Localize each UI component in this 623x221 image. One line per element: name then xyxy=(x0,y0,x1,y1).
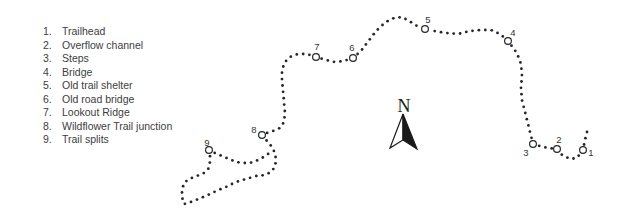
main-trail-dot xyxy=(190,201,193,204)
main-trail-dot xyxy=(208,161,211,164)
main-trail-dot xyxy=(452,32,455,35)
legend-item-number: 1. xyxy=(43,25,62,39)
main-trail-dot xyxy=(440,31,443,34)
main-trail-dot xyxy=(181,191,184,194)
main-trail-dot xyxy=(459,32,462,35)
legend-item-label: Lookout Ridge xyxy=(62,106,130,120)
main-trail-dot xyxy=(308,53,311,56)
waypoint-label-1: 1 xyxy=(588,147,593,158)
main-trail-dot xyxy=(433,30,436,33)
main-trail-dot xyxy=(465,31,468,34)
split-branch-dot xyxy=(213,152,216,155)
legend-list: 1.Trailhead2.Overflow channel3.Steps4.Br… xyxy=(43,25,172,147)
main-trail-dot xyxy=(410,21,413,24)
legend-item-6: 6.Old road bridge xyxy=(43,93,172,107)
waypoint-circle-4 xyxy=(505,38,512,45)
main-trail-dot xyxy=(207,193,210,196)
main-trail-dot xyxy=(282,97,285,100)
waypoint-circle-3 xyxy=(530,141,537,148)
split-branch-dot xyxy=(225,157,228,160)
legend-item-label: Trailhead xyxy=(62,25,105,39)
main-trail-dot xyxy=(520,67,523,70)
main-trail-dot xyxy=(182,185,185,188)
main-trail-dot xyxy=(282,122,285,125)
main-trail-dot xyxy=(521,99,524,102)
main-trail-dot xyxy=(530,136,533,139)
compass-north-label: N xyxy=(398,96,411,116)
main-trail-dot xyxy=(267,172,270,175)
split-branch-dot xyxy=(231,159,234,162)
main-trail-dot xyxy=(274,162,277,165)
main-trail-dot xyxy=(266,132,269,135)
waypoint-circle-2 xyxy=(554,146,561,153)
main-trail-dot xyxy=(527,124,530,127)
main-trail-dot xyxy=(577,154,580,157)
legend-item-label: Old trail shelter xyxy=(62,79,133,93)
legend-item-2: 2.Overflow channel xyxy=(43,39,172,53)
legend-item-1: 1.Trailhead xyxy=(43,25,172,39)
compass-arrow-left-half xyxy=(390,114,403,148)
main-trail-dot xyxy=(584,137,587,140)
legend-item-label: Old road bridge xyxy=(62,93,134,107)
split-branch-dot xyxy=(267,153,270,156)
main-trail-dot xyxy=(583,143,586,146)
legend-item-number: 9. xyxy=(43,133,62,147)
main-trail-dot xyxy=(478,29,481,32)
main-trail-dot xyxy=(283,116,286,119)
main-trail-dot xyxy=(386,20,389,23)
main-trail-dot xyxy=(285,60,288,63)
main-trail-dot xyxy=(361,48,364,51)
main-trail-dot xyxy=(243,178,246,181)
main-trail-dot xyxy=(345,59,348,62)
main-trail-dot xyxy=(219,188,222,191)
legend-item-5: 5.Old trail shelter xyxy=(43,79,172,93)
main-trail-dot xyxy=(202,172,205,175)
main-trail-dot xyxy=(517,55,520,58)
split-branch-dot xyxy=(243,162,246,165)
waypoint-label-2: 2 xyxy=(556,134,561,145)
main-trail-dot xyxy=(202,196,205,199)
main-trail-dot xyxy=(181,197,184,200)
waypoint-label-7: 7 xyxy=(314,41,319,52)
main-trail-dot xyxy=(249,176,252,179)
trail-map-figure: 123456789 N 1.Trailhead2.Overflow channe… xyxy=(0,0,623,221)
legend-item-number: 2. xyxy=(43,39,62,53)
main-trail-dot xyxy=(376,28,379,31)
main-trail-dot xyxy=(265,139,268,142)
main-trail-dot xyxy=(295,53,298,56)
main-trail-dot xyxy=(320,57,323,60)
main-trail-dot xyxy=(273,150,276,153)
legend-item-label: Wildflower Trail junction xyxy=(62,120,172,134)
main-trail-dot xyxy=(209,155,212,158)
main-trail-dot xyxy=(281,71,284,74)
main-trail-dot xyxy=(272,130,275,133)
main-trail-dot xyxy=(544,146,547,149)
legend-item-number: 8. xyxy=(43,120,62,134)
main-trail-dot xyxy=(272,168,275,171)
main-trail-dot xyxy=(566,156,569,159)
main-trail-dot xyxy=(529,130,532,133)
main-trail-dot xyxy=(520,93,523,96)
main-trail-dot xyxy=(261,174,264,177)
legend-item-number: 6. xyxy=(43,93,62,107)
legend-item-label: Overflow channel xyxy=(62,39,143,53)
compass-rose: N xyxy=(390,96,417,149)
main-trail-dot xyxy=(519,61,522,64)
main-trail-dot xyxy=(333,60,336,63)
main-trail-dot xyxy=(372,33,375,36)
main-trail-dot xyxy=(484,29,487,32)
main-trail-dot xyxy=(501,35,504,38)
main-trail-dot xyxy=(196,198,199,201)
main-trail-dot xyxy=(225,185,228,188)
legend-item-number: 4. xyxy=(43,66,62,80)
main-trail-dot xyxy=(289,55,292,58)
main-trail-dot xyxy=(339,60,342,63)
waypoint-label-4: 4 xyxy=(510,27,515,38)
waypoint-circle-5 xyxy=(422,26,429,33)
main-trail-dot xyxy=(586,131,589,134)
waypoint-circle-8 xyxy=(259,132,266,139)
legend-item-7: 7.Lookout Ridge xyxy=(43,106,172,120)
main-trail-dot xyxy=(496,32,499,35)
main-trail-dot xyxy=(538,144,541,147)
main-trail-dot xyxy=(365,43,368,46)
